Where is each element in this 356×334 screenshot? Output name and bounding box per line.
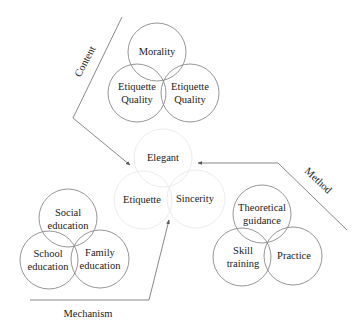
social-education-line2: education [48,220,90,231]
etiquette-quality-left-line1: Etiquette [118,81,156,92]
elegant-label: Elegant [147,152,179,163]
morality-label: Morality [139,46,176,57]
mechanism-arm-label: Mechanism [64,308,113,319]
theoretical-guidance-line2: guidance [243,215,281,226]
skill-training-line1: Skill [233,245,253,256]
practice-label: Practice [277,250,311,261]
center-group: Elegant Etiquette Sincerity [114,129,225,229]
etiquette-quality-left-line2: Quality [121,94,153,105]
content-arm-label: Content [72,44,97,79]
family-education-line2: education [80,260,122,271]
theoretical-guidance-node: Theoretical guidance [233,185,291,243]
school-education-line1: School [33,248,62,259]
family-education-node: Family education [71,230,129,288]
etiquette-node: Etiquette [114,171,172,229]
elegant-node: Elegant [134,129,192,187]
etiquette-label: Etiquette [123,194,161,205]
practice-node: Practice [264,227,322,285]
skill-training-circle [213,228,271,286]
family-education-circle [71,230,129,288]
theoretical-guidance-circle [233,185,291,243]
etiquette-quality-right-line2: Quality [174,94,206,105]
sincerity-label: Sincerity [176,193,215,204]
skill-training-line2: training [227,258,260,269]
etiquette-quality-right-node: Etiquette Quality [161,64,219,122]
theoretical-guidance-line1: Theoretical [238,202,286,213]
etiquette-quality-right-line1: Etiquette [171,81,209,92]
school-education-line2: education [28,261,70,272]
content-group: Morality Etiquette Quality Etiquette Qua… [108,23,219,122]
social-education-line1: Social [55,207,81,218]
diagram-canvas: Content Method Mechanism Elegant Etiquet… [0,0,356,334]
etiquette-quality-right-circle [161,64,219,122]
skill-training-node: Skill training [213,228,271,286]
sincerity-node: Sincerity [167,170,225,228]
mechanism-group: Social education School education Family… [20,189,129,289]
method-group: Theoretical guidance Skill training Prac… [213,185,322,286]
family-education-line1: Family [85,247,116,258]
